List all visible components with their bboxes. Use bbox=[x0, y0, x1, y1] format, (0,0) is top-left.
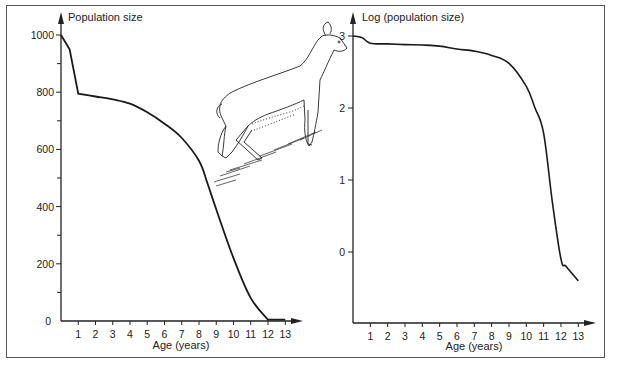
right-x-axis-label: Age (years) bbox=[446, 340, 503, 352]
y-tick-label: 2 bbox=[339, 102, 345, 114]
left-y-axis-label: Population size bbox=[68, 11, 143, 23]
x-tick-label: 10 bbox=[228, 328, 240, 340]
y-tick-label: 400 bbox=[36, 201, 54, 213]
x-tick-label: 5 bbox=[144, 328, 150, 340]
x-tick-label: 2 bbox=[385, 330, 391, 342]
y-tick-label: 1 bbox=[339, 174, 345, 186]
log-population-size-line bbox=[353, 36, 578, 281]
x-tick-label: 10 bbox=[520, 330, 532, 342]
x-tick-label: 5 bbox=[437, 330, 443, 342]
figure-caption bbox=[6, 363, 221, 371]
x-axis-arrow-icon bbox=[584, 320, 596, 326]
x-tick-label: 1 bbox=[367, 330, 373, 342]
y-tick-label: 0 bbox=[45, 315, 51, 327]
x-tick-label: 3 bbox=[110, 328, 116, 340]
left-x-axis-label: Age (years) bbox=[153, 339, 210, 351]
y-tick-label: 200 bbox=[36, 258, 54, 270]
right-axes: 012312345678910111213 bbox=[339, 12, 596, 342]
x-tick-label: 4 bbox=[419, 330, 425, 342]
y-tick-label: 0 bbox=[339, 246, 345, 258]
y-tick-label: 3 bbox=[339, 30, 345, 42]
x-tick-label: 11 bbox=[245, 328, 256, 340]
x-axis-arrow-icon bbox=[291, 318, 303, 324]
y-axis-arrow-icon bbox=[58, 12, 64, 24]
y-tick-label: 1000 bbox=[31, 29, 55, 41]
x-tick-label: 1 bbox=[75, 328, 81, 340]
x-tick-label: 13 bbox=[279, 328, 291, 340]
x-tick-label: 9 bbox=[506, 330, 512, 342]
x-tick-label: 12 bbox=[262, 328, 274, 340]
right-y-axis-label: Log (population size) bbox=[362, 11, 464, 23]
x-tick-label: 13 bbox=[572, 330, 584, 342]
y-axis-arrow-icon bbox=[350, 12, 356, 24]
x-tick-label: 3 bbox=[402, 330, 408, 342]
x-tick-label: 2 bbox=[93, 328, 99, 340]
chamois-illustration-icon bbox=[214, 22, 347, 186]
x-tick-label: 11 bbox=[538, 330, 549, 342]
x-tick-label: 12 bbox=[555, 330, 567, 342]
log-population-size-chart: 012312345678910111213 Log (population si… bbox=[339, 11, 596, 352]
x-tick-label: 9 bbox=[213, 328, 219, 340]
x-tick-label: 4 bbox=[127, 328, 133, 340]
y-tick-label: 600 bbox=[36, 143, 54, 155]
population-size-line bbox=[61, 35, 285, 320]
figure-canvas: 0200400600800100012345678910111213 Popul… bbox=[0, 0, 620, 379]
population-size-chart: 0200400600800100012345678910111213 Popul… bbox=[31, 11, 303, 351]
y-tick-label: 800 bbox=[36, 86, 54, 98]
